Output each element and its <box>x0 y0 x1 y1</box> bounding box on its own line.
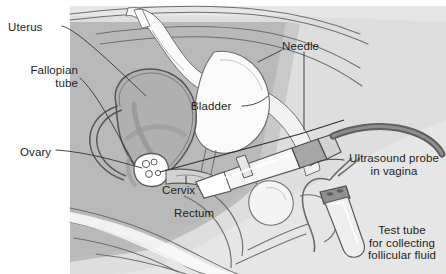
label-ultrasound-probe-line1: Ultrasound probe <box>349 152 439 164</box>
label-fallopian-tube: Fallopiantube <box>2 64 78 89</box>
label-rectum: Rectum <box>174 207 214 220</box>
label-test-tube-line2: for collecting <box>369 237 435 249</box>
label-test-tube-line3: follicular fluid <box>368 249 436 261</box>
label-test-tube-line1: Test tube <box>378 224 426 236</box>
medical-illustration-figure: Uterus Fallopiantube Needle Bladder Ovar… <box>0 0 446 274</box>
label-cervix: Cervix <box>162 184 195 197</box>
label-needle: Needle <box>282 40 319 53</box>
label-ultrasound-probe: Ultrasound probein vagina <box>344 152 444 177</box>
label-ovary: Ovary <box>20 146 51 159</box>
label-fallopian-tube-line1: Fallopian <box>30 64 78 76</box>
label-bladder: Bladder <box>191 100 231 113</box>
label-fallopian-tube-line2: tube <box>55 77 78 89</box>
label-test-tube: Test tubefor collectingfollicular fluid <box>358 224 446 262</box>
label-uterus: Uterus <box>8 21 42 34</box>
label-ultrasound-probe-line2: in vagina <box>371 165 418 177</box>
